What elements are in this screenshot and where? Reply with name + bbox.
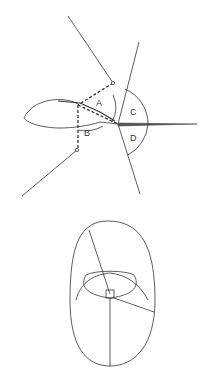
label-c: C xyxy=(130,107,137,117)
skull-outline xyxy=(70,221,155,366)
label-a: A xyxy=(96,98,102,108)
label-d: D xyxy=(130,133,137,143)
blade xyxy=(118,123,197,126)
bottom-panel xyxy=(70,221,155,366)
upper-left-line xyxy=(68,16,113,83)
inner-ridge xyxy=(76,273,148,300)
arc-a xyxy=(112,95,116,122)
point-upper xyxy=(111,81,114,84)
label-b: B xyxy=(84,128,90,138)
lower-left-line xyxy=(22,150,77,196)
steep-line-lower xyxy=(118,124,140,194)
arc-c xyxy=(125,89,148,124)
diagram-canvas: A B C D xyxy=(0,0,207,381)
line-right xyxy=(114,298,154,312)
top-panel xyxy=(22,16,197,196)
line-upper-left xyxy=(89,230,110,294)
point-lower xyxy=(75,148,78,151)
